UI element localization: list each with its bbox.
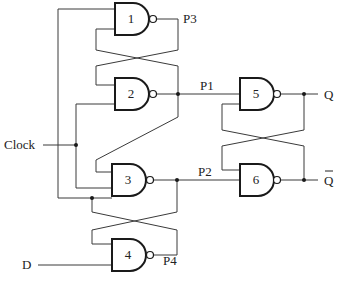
nand-gate-6: 6 xyxy=(240,164,281,196)
nand-gate-3-bubble xyxy=(147,177,154,184)
junction-clock xyxy=(74,143,78,147)
d-flip-flop-diagram: 1 2 3 4 5 6 Clock D P3 P1 P2 P4 Q Q xyxy=(0,0,343,302)
nand-gate-6-bubble xyxy=(274,177,281,184)
gate-4-label: 4 xyxy=(125,247,132,262)
junction-qbar xyxy=(302,178,306,182)
gate-5-label: 5 xyxy=(253,86,260,101)
wire-clock-to-gates-2-3 xyxy=(76,104,115,188)
q-bar-output-label: Q xyxy=(324,173,334,188)
p2-label: P2 xyxy=(198,164,212,179)
nand-gate-2: 2 xyxy=(115,78,157,110)
q-output-label: Q xyxy=(324,87,334,102)
signal-labels: Clock D P3 P1 P2 P4 Q Q xyxy=(4,11,334,272)
nand-gate-2-bubble xyxy=(150,91,157,98)
gate-2-label: 2 xyxy=(128,86,135,101)
p1-label: P1 xyxy=(200,78,214,93)
nand-gate-4-bubble xyxy=(147,252,154,259)
junction-p2 xyxy=(175,178,179,182)
nand-gate-1-bubble xyxy=(150,16,157,23)
p4-label: P4 xyxy=(163,253,177,268)
nand-gate-1: 1 xyxy=(115,3,157,35)
gate-6-label: 6 xyxy=(253,172,260,187)
gate-1-label: 1 xyxy=(128,11,135,26)
d-label: D xyxy=(22,257,31,272)
nand-gate-5-bubble xyxy=(274,91,281,98)
junction-p1 xyxy=(176,92,180,96)
p3-label: P3 xyxy=(183,11,197,26)
junction-q xyxy=(302,92,306,96)
clock-label: Clock xyxy=(4,137,36,152)
gate-3-label: 3 xyxy=(125,172,132,187)
wires xyxy=(38,9,318,265)
nand-gate-4: 4 xyxy=(112,239,154,271)
nand-gate-3: 3 xyxy=(112,164,154,196)
junction-gate3-bottom xyxy=(90,196,94,200)
nand-gate-5: 5 xyxy=(240,78,281,110)
